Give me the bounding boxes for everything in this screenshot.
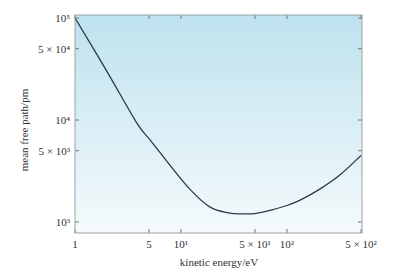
y-tick-label: 5 × 10³ bbox=[38, 145, 70, 157]
y-tick-label: 10⁴ bbox=[55, 114, 70, 126]
y-tick-label: 10³ bbox=[56, 216, 71, 228]
y-tick-label: 5 × 10⁴ bbox=[38, 43, 70, 55]
chart: 1510¹5 × 10¹10²5 × 10²10³5 × 10³10⁴5 × 1… bbox=[0, 0, 401, 276]
x-tick-label: 5 × 10² bbox=[345, 238, 377, 250]
x-tick-label: 5 × 10¹ bbox=[239, 238, 271, 250]
x-tick-label: 10² bbox=[280, 238, 295, 250]
x-tick-label: 10¹ bbox=[174, 238, 188, 250]
plot-area bbox=[75, 15, 362, 233]
x-tick-label: 1 bbox=[72, 238, 78, 250]
y-tick-label: 10⁵ bbox=[55, 12, 70, 24]
x-tick-label: 5 bbox=[146, 238, 152, 250]
x-axis-label: kinetic energy/eV bbox=[180, 256, 258, 268]
y-axis-label: mean free path/pm bbox=[18, 88, 30, 171]
